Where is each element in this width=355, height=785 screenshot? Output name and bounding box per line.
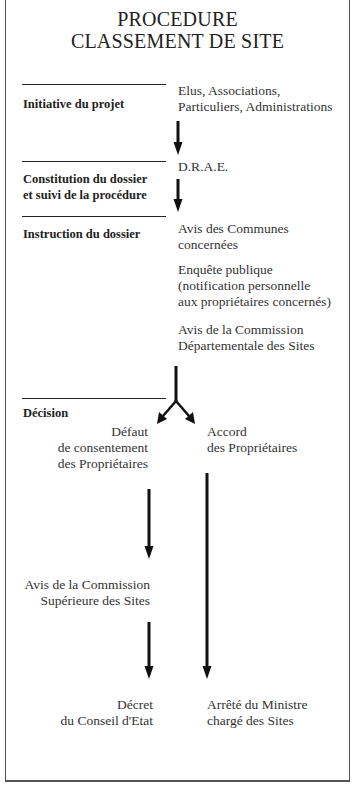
fork-arrow-icon: [157, 366, 195, 424]
arrow-down-icon: [174, 121, 183, 155]
arrow-down-icon: [174, 179, 183, 212]
arrow-down-icon: [145, 622, 154, 679]
flow-arrows: [0, 0, 355, 785]
arrow-down-icon: [145, 489, 154, 559]
arrow-down-icon: [203, 473, 212, 679]
